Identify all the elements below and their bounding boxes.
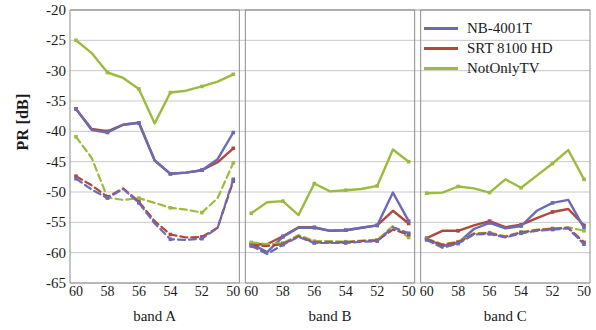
data-point-marker	[407, 160, 411, 164]
data-point-marker	[232, 73, 236, 77]
series-line	[76, 176, 233, 237]
data-point-marker	[425, 238, 429, 242]
series-line	[76, 137, 233, 213]
data-point-marker	[169, 233, 173, 237]
data-point-marker	[137, 87, 141, 91]
data-point-marker	[232, 131, 236, 135]
data-point-marker	[74, 177, 78, 181]
series-line	[427, 209, 584, 238]
band-axis-label: band C	[445, 308, 565, 325]
legend-item[interactable]: NotOnlyTV	[424, 58, 590, 78]
data-point-marker	[344, 228, 348, 232]
data-point-marker	[375, 224, 379, 228]
x-tick-label: 58	[271, 284, 295, 300]
data-point-marker	[200, 211, 204, 215]
x-tick-label: 56	[127, 284, 151, 300]
data-point-marker	[488, 191, 492, 195]
data-point-marker	[456, 242, 460, 246]
data-point-marker	[519, 224, 523, 228]
data-point-marker	[281, 243, 285, 247]
data-point-marker	[169, 238, 173, 242]
x-tick-label: 60	[239, 284, 263, 300]
data-point-marker	[313, 241, 317, 245]
data-point-marker	[169, 91, 173, 95]
data-point-marker	[250, 244, 254, 248]
legend-label: NB-4001T	[467, 19, 532, 37]
series-line	[76, 40, 233, 123]
data-point-marker	[551, 162, 555, 166]
data-point-marker	[281, 235, 285, 239]
data-point-marker	[137, 121, 141, 125]
x-tick-label: 54	[158, 284, 182, 300]
series-line	[427, 200, 584, 246]
series-line	[251, 211, 408, 244]
data-point-marker	[106, 131, 110, 135]
data-point-marker	[74, 135, 78, 139]
series-line	[76, 109, 233, 174]
band-axis-label: band B	[270, 308, 390, 325]
x-tick-label: 52	[541, 284, 565, 300]
data-point-marker	[456, 185, 460, 189]
legend-item[interactable]: NB-4001T	[424, 18, 590, 38]
data-point-marker	[375, 184, 379, 188]
data-point-marker	[344, 241, 348, 245]
data-point-marker	[232, 147, 236, 151]
data-point-marker	[232, 178, 236, 182]
data-point-marker	[582, 242, 586, 246]
series-line	[427, 150, 584, 193]
data-point-marker	[582, 229, 586, 233]
data-point-marker	[488, 221, 492, 225]
legend-color-swatch	[424, 47, 458, 50]
x-tick-label: 60	[64, 284, 88, 300]
data-point-marker	[519, 186, 523, 190]
pr-vs-channel-chart: PR [dB] -20-25-30-35-40-45-50-55-60-65 6…	[0, 0, 596, 330]
legend-label: SRT 8100 HD	[467, 39, 553, 57]
data-point-marker	[74, 39, 78, 43]
legend-label: NotOnlyTV	[467, 59, 540, 77]
data-point-marker	[551, 201, 555, 205]
x-tick-label: 58	[446, 284, 470, 300]
legend-item[interactable]: SRT 8100 HD	[424, 38, 590, 58]
legend-color-swatch	[424, 27, 458, 30]
x-tick-label: 50	[572, 284, 596, 300]
x-tick-label: 56	[302, 284, 326, 300]
band-axis-label: band A	[95, 308, 215, 325]
series-line	[76, 179, 233, 240]
data-point-marker	[137, 201, 141, 205]
data-point-marker	[106, 71, 110, 75]
data-point-marker	[519, 232, 523, 236]
data-point-marker	[137, 196, 141, 200]
data-point-marker	[313, 226, 317, 230]
legend: NB-4001TSRT 8100 HDNotOnlyTV	[424, 18, 590, 78]
x-tick-label: 60	[415, 284, 439, 300]
data-point-marker	[200, 85, 204, 89]
data-point-marker	[456, 229, 460, 233]
data-point-marker	[200, 237, 204, 241]
data-point-marker	[407, 219, 411, 223]
data-point-marker	[582, 178, 586, 182]
x-tick-label: 58	[95, 284, 119, 300]
x-tick-label: 56	[478, 284, 502, 300]
data-point-marker	[169, 206, 173, 210]
panel-frame	[70, 10, 239, 283]
data-point-marker	[106, 196, 110, 200]
series-line	[251, 150, 408, 216]
x-tick-label: 54	[509, 284, 533, 300]
x-tick-label: 52	[190, 284, 214, 300]
data-point-marker	[551, 228, 555, 232]
data-point-marker	[250, 211, 254, 215]
data-point-marker	[344, 188, 348, 192]
data-point-marker	[488, 232, 492, 236]
data-point-marker	[232, 161, 236, 165]
data-point-marker	[200, 168, 204, 172]
x-tick-label: 52	[365, 284, 389, 300]
data-point-marker	[551, 210, 555, 214]
data-point-marker	[425, 191, 429, 195]
data-point-marker	[169, 172, 173, 176]
data-point-marker	[313, 182, 317, 186]
data-point-marker	[74, 107, 78, 111]
x-tick-label: 54	[334, 284, 358, 300]
legend-color-swatch	[424, 67, 458, 70]
data-point-marker	[281, 199, 285, 203]
data-point-marker	[407, 232, 411, 236]
